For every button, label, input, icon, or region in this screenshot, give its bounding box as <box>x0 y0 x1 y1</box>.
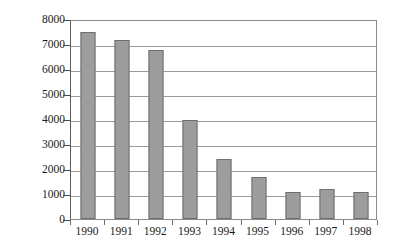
y-tick-mark <box>63 95 70 96</box>
x-tick-mark <box>275 220 276 225</box>
bar-slot <box>344 21 378 219</box>
bar-1993[interactable] <box>183 120 198 220</box>
y-tick-mark <box>63 70 70 71</box>
bars-layer <box>71 21 376 219</box>
bar-slot <box>173 21 207 219</box>
bar-1997[interactable] <box>319 189 334 220</box>
bar-1995[interactable] <box>251 177 266 220</box>
y-tick-label: 0 <box>21 214 65 226</box>
x-tick-mark <box>241 220 242 225</box>
y-tick-mark <box>63 220 70 221</box>
bar-slot <box>310 21 344 219</box>
y-tick-label: 4000 <box>21 114 65 126</box>
y-tick-label: 3000 <box>21 139 65 151</box>
bar-1994[interactable] <box>217 159 232 220</box>
x-tick-mark <box>138 220 139 225</box>
y-tick-mark <box>63 45 70 46</box>
x-tick-mark <box>172 220 173 225</box>
x-tick-mark <box>309 220 310 225</box>
x-tick-mark <box>70 220 71 225</box>
y-tick-label: 2000 <box>21 164 65 176</box>
bar-slot <box>105 21 139 219</box>
x-tick-label-1998: 1998 <box>335 226 385 238</box>
bar-slot <box>242 21 276 219</box>
bar-slot <box>139 21 173 219</box>
bar-1991[interactable] <box>115 40 130 219</box>
plot-area <box>70 20 377 220</box>
y-tick-mark <box>63 195 70 196</box>
y-tick-mark <box>63 145 70 146</box>
bar-1996[interactable] <box>285 192 300 219</box>
y-tick-label: 7000 <box>21 39 65 51</box>
y-tick-label: 5000 <box>21 89 65 101</box>
y-tick-label: 8000 <box>21 14 65 26</box>
y-tick-label: 1000 <box>21 189 65 201</box>
x-tick-mark <box>206 220 207 225</box>
bar-slot <box>276 21 310 219</box>
bar-chart: Total Number 010002000300040005000600070… <box>0 0 399 252</box>
bar-1990[interactable] <box>81 32 96 220</box>
bar-slot <box>71 21 105 219</box>
y-tick-mark <box>63 170 70 171</box>
x-tick-mark <box>104 220 105 225</box>
bar-slot <box>207 21 241 219</box>
x-tick-mark <box>377 220 378 225</box>
bar-1992[interactable] <box>149 50 164 219</box>
y-tick-mark <box>63 20 70 21</box>
y-tick-mark <box>63 120 70 121</box>
bar-1998[interactable] <box>353 192 368 219</box>
y-tick-label: 6000 <box>21 64 65 76</box>
x-tick-mark <box>343 220 344 225</box>
